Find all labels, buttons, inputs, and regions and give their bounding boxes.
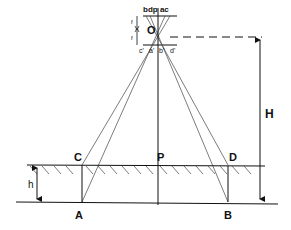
object-height-label: h (28, 179, 34, 190)
focal-length-arrows (135, 16, 139, 45)
elevated-surface (27, 165, 265, 174)
focal-label-upper: f (131, 19, 133, 25)
flying-height-label: H (265, 107, 274, 121)
top-plane-label: bdp ac (143, 5, 169, 14)
neg-d-label: d' (170, 47, 175, 54)
point-a-label: A (75, 209, 83, 221)
neg-c-label: c' (139, 47, 144, 54)
center-label-o: O (147, 24, 156, 36)
projection-rays (82, 16, 228, 202)
neg-b-label: b' (159, 47, 164, 54)
point-d-label: D (229, 151, 237, 163)
neg-a-label: a' (149, 47, 154, 54)
point-c-label: C (74, 151, 82, 163)
datum-line (16, 202, 278, 204)
relief-displacement-diagram: bdp ac O f f c' a' b' d' C P D A B H h (0, 0, 291, 230)
point-b-label: B (224, 209, 232, 221)
focal-label-lower: f (131, 35, 133, 41)
point-p-label: P (157, 151, 164, 163)
